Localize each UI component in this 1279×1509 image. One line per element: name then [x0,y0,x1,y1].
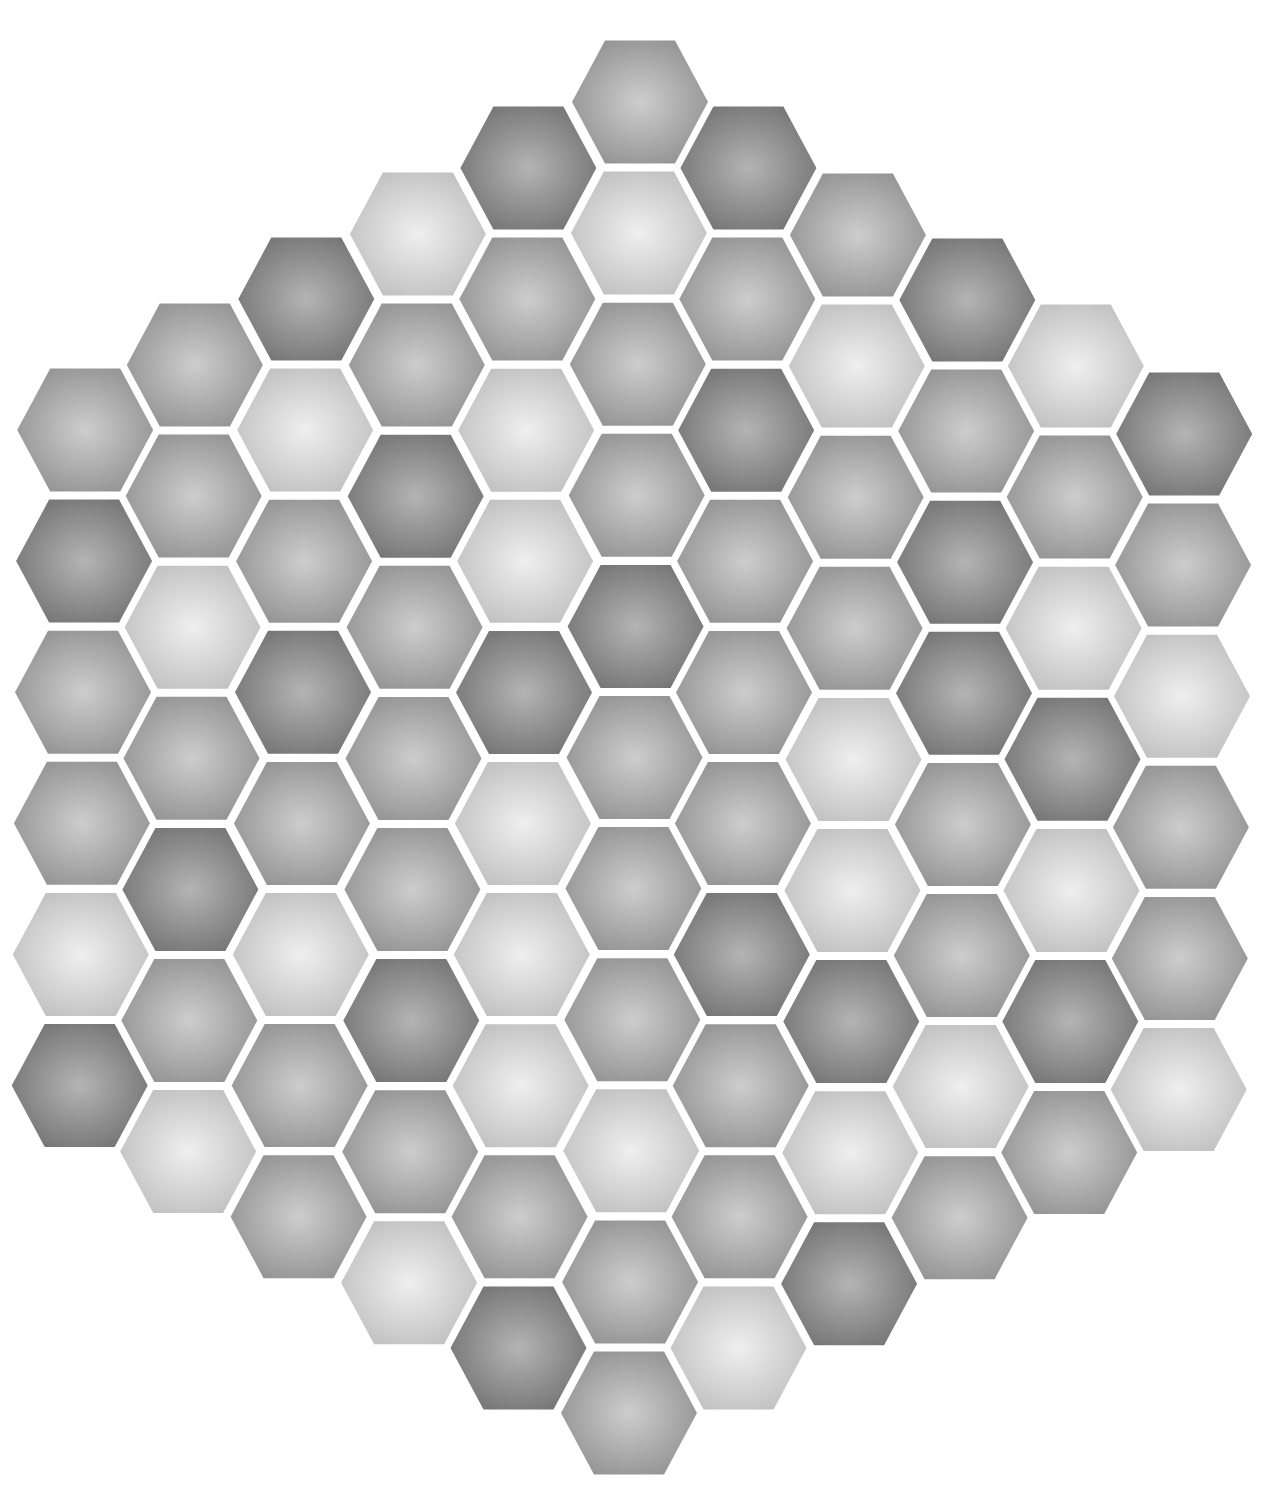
hex-tile-light[interactable] [454,893,590,1016]
hex-tile-dark[interactable] [897,501,1033,624]
hex-tile-medium[interactable] [561,1352,697,1475]
hex-tile-medium[interactable] [892,1156,1028,1279]
hex-tile-medium[interactable] [344,828,480,951]
hex-tile-medium[interactable] [342,1090,478,1213]
hex-tile-light[interactable] [782,1091,918,1214]
hex-tile-medium[interactable] [124,697,260,820]
hex-tiles-group [12,41,1253,1475]
hex-tile-light[interactable] [237,369,373,492]
hex-tile-dark[interactable] [899,239,1035,362]
hex-tile-dark[interactable] [238,238,374,361]
hex-tile-light[interactable] [893,1025,1029,1148]
hex-tile-medium[interactable] [231,1155,367,1278]
hex-tile-dark[interactable] [1116,373,1252,496]
hex-tile-medium[interactable] [1001,1091,1137,1214]
hex-tile-light[interactable] [233,893,369,1016]
hex-tile-dark[interactable] [678,369,814,492]
hex-tile-light[interactable] [784,829,920,952]
hex-tile-medium[interactable] [127,304,263,427]
hex-tile-medium[interactable] [790,174,926,297]
hex-tile-light[interactable] [13,893,149,1016]
hex-tile-light[interactable] [1008,305,1144,428]
hex-tile-light[interactable] [571,172,707,295]
hex-tile-light[interactable] [1111,1028,1247,1151]
hex-tile-medium[interactable] [562,1220,698,1343]
hex-tile-medium[interactable] [232,1024,368,1147]
hex-tile-dark[interactable] [122,828,258,951]
hex-tile-medium[interactable] [349,304,485,427]
hex-board [0,0,1279,1509]
hex-tile-light[interactable] [350,173,486,296]
hex-tile-medium[interactable] [121,959,257,1082]
hex-tile-dark[interactable] [783,960,919,1083]
hex-tile-light[interactable] [453,1024,589,1147]
hex-tile-medium[interactable] [572,41,708,164]
hex-tile-light[interactable] [1006,567,1142,690]
hex-tile-medium[interactable] [346,697,482,820]
hex-tile-light[interactable] [120,1090,256,1213]
hex-tile-dark[interactable] [1005,698,1141,821]
hex-tile-medium[interactable] [459,238,595,361]
hex-tile-light[interactable] [458,369,594,492]
hex-tile-medium[interactable] [672,1155,808,1278]
hex-tile-dark[interactable] [16,500,152,623]
hex-tile-dark[interactable] [12,1024,148,1147]
hex-tile-light[interactable] [455,762,591,885]
hex-tile-medium[interactable] [895,763,1031,886]
hex-tile-dark[interactable] [680,107,816,230]
hex-tile-medium[interactable] [894,894,1030,1017]
hex-tile-medium[interactable] [236,500,372,623]
hex-tile-medium[interactable] [452,1155,588,1278]
hex-tile-medium[interactable] [673,1024,809,1147]
hex-tile-dark[interactable] [456,631,592,754]
hex-tile-dark[interactable] [460,107,596,230]
hex-tile-medium[interactable] [679,238,815,361]
hex-tile-medium[interactable] [126,435,262,558]
hex-tile-light[interactable] [789,305,925,428]
hex-tile-light[interactable] [786,698,922,821]
hex-tile-medium[interactable] [567,696,703,819]
hex-tile-medium[interactable] [17,369,153,492]
hex-tile-light[interactable] [1003,829,1139,952]
hex-tile-dark[interactable] [451,1286,587,1409]
hex-tile-medium[interactable] [675,762,811,885]
hex-tile-light[interactable] [457,500,593,623]
hex-tile-medium[interactable] [1007,436,1143,559]
hex-tile-dark[interactable] [235,631,371,754]
hex-tile-medium[interactable] [898,370,1034,493]
hex-tile-dark[interactable] [781,1222,917,1345]
hex-tile-medium[interactable] [570,303,706,426]
hex-tile-medium[interactable] [564,958,700,1081]
hex-tile-medium[interactable] [788,436,924,559]
hex-tile-medium[interactable] [14,762,150,885]
hex-tile-light[interactable] [563,1089,699,1212]
hex-tile-dark[interactable] [568,565,704,688]
hex-tile-medium[interactable] [569,434,705,557]
hex-tile-dark[interactable] [674,893,810,1016]
hex-tile-medium[interactable] [677,500,813,623]
hex-tile-medium[interactable] [347,566,483,689]
hex-tile-medium[interactable] [1112,897,1248,1020]
hex-tile-medium[interactable] [15,631,151,754]
hex-tile-light[interactable] [341,1221,477,1344]
hex-tile-medium[interactable] [234,762,370,885]
hex-tile-dark[interactable] [1002,960,1138,1083]
hex-tile-medium[interactable] [1113,766,1249,889]
hex-tile-medium[interactable] [676,631,812,754]
hex-tile-light[interactable] [1114,635,1250,758]
hex-tile-light[interactable] [671,1286,807,1409]
hex-tile-medium[interactable] [565,827,701,950]
hex-tile-dark[interactable] [896,632,1032,755]
hex-tile-light[interactable] [125,566,261,689]
hex-tile-dark[interactable] [348,435,484,558]
hex-tile-medium[interactable] [1115,504,1251,627]
hex-tile-medium[interactable] [787,567,923,690]
hex-tile-dark[interactable] [343,959,479,1082]
